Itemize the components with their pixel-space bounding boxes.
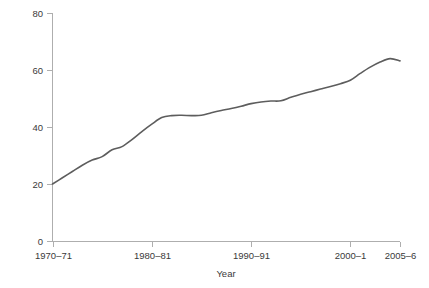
y-axis-ticks: 020406080 — [32, 8, 52, 247]
x-tick-label: 1970–71 — [35, 250, 72, 261]
line-chart: 020406080 1970–711980–811990–912000–1200… — [0, 0, 429, 288]
y-tick-label: 60 — [32, 65, 43, 76]
x-axis: 1970–711980–811990–912000–12005–6 — [35, 242, 416, 262]
y-tick-label: 80 — [32, 8, 43, 19]
x-tick-label: 2005–6 — [385, 250, 417, 261]
x-tick-label: 1980–81 — [134, 250, 171, 261]
data-series-line — [53, 59, 401, 184]
y-tick-label: 20 — [32, 179, 43, 190]
y-axis: 020406080 — [32, 8, 52, 247]
chart-container: 020406080 1970–711980–811990–912000–1200… — [0, 0, 429, 288]
x-axis-ticks: 1970–711980–811990–912000–12005–6 — [35, 242, 416, 262]
x-tick-label: 1990–91 — [233, 250, 270, 261]
y-tick-label: 40 — [32, 122, 43, 133]
x-tick-label: 2000–1 — [335, 250, 367, 261]
x-axis-title: Year — [216, 268, 235, 279]
y-tick-label: 0 — [38, 236, 43, 247]
